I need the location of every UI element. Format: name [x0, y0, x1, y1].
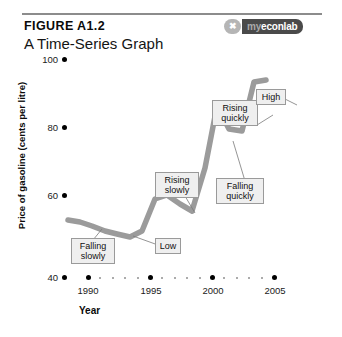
- chart-plot-area: Price of gasoline (cents per litre) 100 …: [0, 0, 342, 337]
- figure-panel: FIGURE A1.2 A Time-Series Graph ✖ myecon…: [0, 0, 342, 337]
- callout-rising-slowly: Rising slowly: [155, 172, 199, 198]
- leader-high: [285, 99, 297, 105]
- time-series-line: [0, 0, 342, 337]
- leader-rising-quickly: [257, 115, 273, 125]
- callout-falling-slowly: Falling slowly: [71, 238, 115, 264]
- callout-rising-quickly: Rising quickly: [212, 100, 258, 126]
- callout-falling-quickly: Falling quickly: [216, 178, 264, 204]
- callout-high: High: [256, 89, 286, 105]
- leader-falling-quickly: [233, 141, 245, 181]
- callout-low: Low: [155, 238, 181, 254]
